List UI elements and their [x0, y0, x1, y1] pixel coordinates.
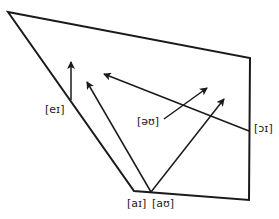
vowel-diagram	[0, 0, 279, 219]
arrow-oi	[104, 74, 249, 131]
diphthong-arrows	[71, 62, 249, 192]
label-ai: [aɪ]	[127, 198, 146, 209]
label-ou: [əʊ]	[137, 116, 159, 127]
arrow-ou	[164, 88, 207, 119]
arrow-au	[151, 99, 224, 192]
label-ei: [eɪ]	[45, 104, 64, 115]
label-au: [aʊ]	[152, 198, 174, 209]
label-oi: [ɔɪ]	[254, 123, 273, 134]
